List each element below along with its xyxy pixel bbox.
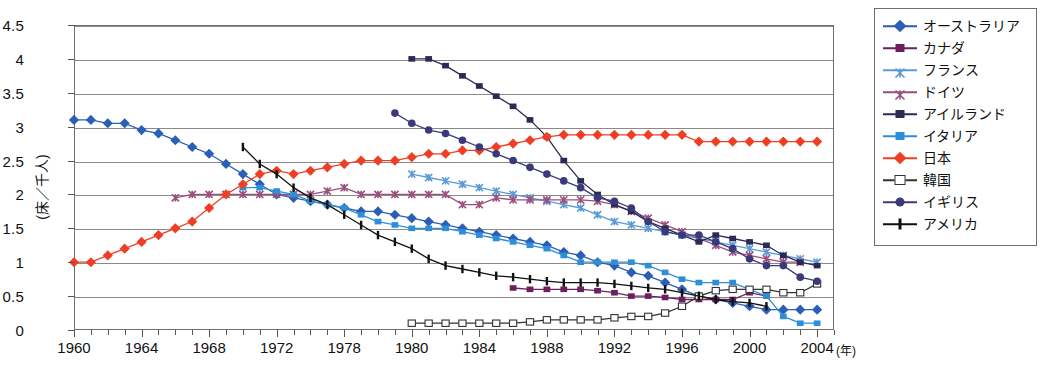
legend-item-7[interactable]: 韓国: [875, 169, 1036, 191]
data-point-marker: [326, 200, 328, 208]
series-3: [172, 184, 804, 266]
data-point-marker: [391, 222, 398, 228]
data-point-marker: [712, 280, 719, 286]
data-point-marker: [563, 278, 565, 286]
data-point-marker: [814, 320, 821, 326]
data-point-marker: [643, 271, 653, 281]
data-point-marker: [103, 250, 113, 260]
y-axis-tick-mark: [68, 228, 75, 229]
data-point-marker: [814, 263, 821, 269]
legend-item-2[interactable]: フランス: [875, 59, 1036, 81]
series-line: [175, 188, 800, 263]
data-point-marker: [778, 305, 788, 315]
data-point-marker: [543, 246, 550, 252]
x-axis-tick-mark: [226, 330, 227, 335]
legend-item-9[interactable]: アメリカ: [875, 213, 1036, 235]
data-point-marker: [626, 130, 636, 140]
x-axis-tick-mark: [142, 330, 143, 337]
data-point-marker: [153, 230, 163, 240]
x-axis-tick-mark: [581, 330, 582, 335]
data-point-marker: [647, 284, 649, 292]
x-axis-tick-mark: [547, 330, 548, 337]
data-point-marker: [763, 262, 771, 270]
data-point-marker: [508, 139, 518, 149]
y-axis-tick-label: 2: [0, 186, 24, 203]
x-axis-tick-label: 1984: [463, 339, 496, 356]
data-point-marker: [694, 136, 704, 146]
x-axis-tick-mark: [446, 330, 447, 335]
series-layer: [74, 25, 834, 330]
data-point-marker: [526, 319, 533, 325]
legend-item-8[interactable]: イギリス: [875, 191, 1036, 213]
x-axis-tick-label: 1978: [328, 339, 361, 356]
legend-item-4[interactable]: アイルランド: [875, 103, 1036, 125]
data-point-marker: [748, 299, 750, 307]
data-point-marker: [546, 277, 548, 285]
series-0: [69, 115, 822, 315]
y-axis-tick-mark: [68, 296, 75, 297]
series-line: [412, 59, 817, 266]
x-axis-tick-mark: [564, 330, 565, 335]
x-axis-tick-mark: [158, 330, 159, 335]
data-point-marker: [763, 293, 770, 299]
legend-label: 日本: [923, 151, 951, 165]
data-point-marker: [512, 273, 514, 281]
data-point-marker: [677, 130, 687, 140]
series-2: [408, 171, 821, 266]
data-point-marker: [221, 159, 231, 169]
data-point-marker: [275, 170, 277, 178]
data-point-marker: [712, 238, 720, 246]
x-axis-tick-mark: [361, 330, 362, 335]
data-point-marker: [343, 211, 345, 219]
data-point-marker: [427, 255, 429, 263]
data-point-marker: [527, 117, 534, 123]
data-point-marker: [170, 223, 180, 233]
data-point-marker: [611, 197, 619, 205]
x-axis-tick-mark: [530, 330, 531, 335]
x-axis-tick-label: 1992: [598, 339, 631, 356]
x-axis-tick-mark: [631, 330, 632, 335]
x-axis-tick-mark: [783, 330, 784, 335]
data-point-marker: [440, 149, 450, 159]
data-point-marker: [695, 231, 703, 239]
data-point-marker: [765, 302, 767, 310]
legend-item-6[interactable]: 日本: [875, 147, 1036, 169]
legend-swatch-icon: [883, 62, 917, 78]
x-axis-tick-mark: [766, 330, 767, 335]
data-point-marker: [290, 192, 297, 198]
y-axis-tick-mark: [68, 25, 75, 26]
data-point-marker: [715, 295, 717, 303]
data-point-marker: [664, 285, 666, 293]
data-point-marker: [660, 130, 670, 140]
legend-item-3[interactable]: ドイツ: [875, 81, 1036, 103]
data-point-marker: [444, 261, 446, 269]
data-point-marker: [242, 143, 244, 151]
data-point-marker: [611, 315, 618, 321]
legend-swatch-icon: [883, 172, 917, 188]
data-point-marker: [442, 226, 449, 232]
series-8: [391, 109, 821, 285]
y-axis-tick-mark: [68, 59, 75, 60]
data-point-marker: [493, 236, 500, 242]
data-point-marker: [442, 63, 449, 69]
legend-item-1[interactable]: カナダ: [875, 37, 1036, 59]
x-axis-tick-mark: [648, 330, 649, 335]
data-point-marker: [560, 158, 567, 164]
data-point-marker: [259, 160, 261, 168]
data-point-marker: [643, 130, 653, 140]
x-axis-tick-mark: [327, 330, 328, 335]
data-point-marker: [255, 169, 265, 179]
data-point-marker: [390, 210, 400, 220]
data-point-marker: [611, 259, 618, 265]
data-point-marker: [609, 130, 619, 140]
data-point-marker: [425, 320, 432, 326]
legend-item-5[interactable]: イタリア: [875, 125, 1036, 147]
data-point-marker: [408, 226, 415, 232]
data-point-marker: [662, 310, 669, 316]
data-point-marker: [478, 268, 480, 276]
x-axis-tick-mark: [175, 330, 176, 335]
data-point-marker: [626, 267, 636, 277]
data-point-marker: [424, 149, 434, 159]
data-point-marker: [560, 253, 567, 259]
legend-item-0[interactable]: オーストラリア: [875, 15, 1036, 37]
